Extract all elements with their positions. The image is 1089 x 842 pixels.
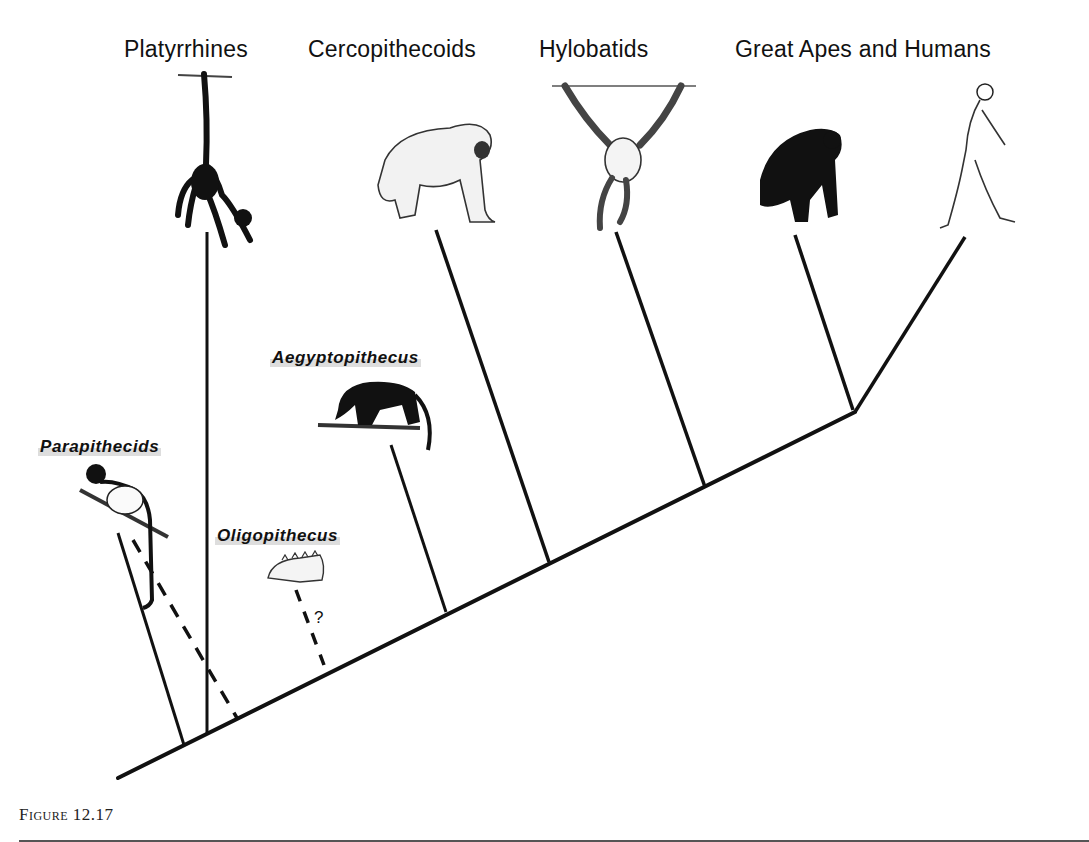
clade-label-cercopithecoids: Cercopithecoids	[308, 36, 476, 63]
baboon-illustration	[378, 124, 495, 222]
figure-caption: Figure 12.17	[19, 805, 114, 825]
oligopithecus-jaw-illustration	[268, 551, 324, 582]
fossil-label-parapithecids: Parapithecids	[38, 437, 161, 457]
human-illustration	[940, 84, 1015, 228]
branch-cercopithecoids	[436, 230, 549, 562]
gibbon-illustration	[552, 86, 696, 228]
main-trunk	[118, 412, 855, 778]
uncertainty-mark: ?	[314, 608, 323, 628]
parapithecid-illustration	[80, 464, 168, 608]
branch-hylobatids	[616, 232, 705, 487]
branch-chimpanzee	[795, 235, 853, 410]
clade-label-platyrrhines: Platyrrhines	[124, 36, 248, 63]
clade-label-hylobatids: Hylobatids	[539, 36, 648, 63]
fossil-label-aegyptopithecus: Aegyptopithecus	[270, 348, 421, 368]
aegyptopithecus-illustration	[318, 382, 430, 450]
spider-monkey-illustration	[178, 74, 252, 245]
branch-aegyptopithecus	[391, 445, 446, 612]
phylogeny-tree	[0, 0, 1089, 842]
branch-human	[855, 237, 965, 412]
fossil-label-oligopithecus: Oligopithecus	[215, 526, 340, 546]
chimpanzee-illustration	[760, 129, 842, 222]
clade-label-great-apes-humans: Great Apes and Humans	[735, 36, 991, 63]
